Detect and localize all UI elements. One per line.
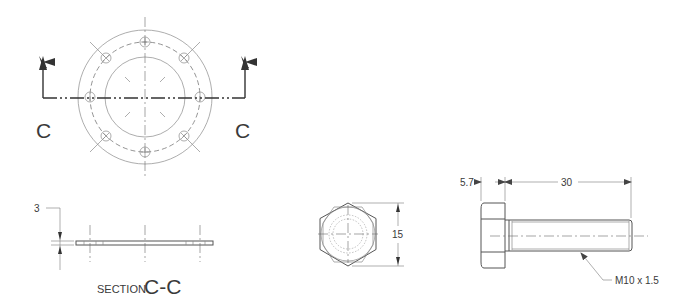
bolt-hole-left bbox=[85, 92, 95, 102]
drawing-canvas: C C 3 SECTION C-C 15 bbox=[0, 0, 678, 301]
bolt-shank bbox=[505, 220, 632, 251]
bolt-hole-bl bbox=[101, 131, 111, 141]
section-label-left: C bbox=[36, 119, 51, 142]
bolt-hole-tl bbox=[101, 53, 111, 63]
section-title-prefix: SECTION bbox=[97, 283, 146, 295]
bolt-head bbox=[481, 203, 505, 268]
bolt-hole-br bbox=[179, 131, 189, 141]
across-flats-dimension: 15 bbox=[392, 229, 404, 240]
thread-callout: M10 x 1.5 bbox=[615, 275, 659, 286]
section-title-id: C-C bbox=[144, 275, 181, 298]
head-height-dimension: 5.7 bbox=[460, 177, 474, 188]
bolt-hole-tr bbox=[179, 53, 189, 63]
bolt-side-view bbox=[478, 177, 648, 280]
shank-length-dimension: 30 bbox=[561, 177, 573, 188]
bolt-hole-right bbox=[195, 92, 205, 102]
section-view bbox=[46, 208, 213, 270]
flange-front-view bbox=[39, 17, 249, 178]
thickness-dimension: 3 bbox=[34, 203, 40, 214]
section-label-right: C bbox=[235, 119, 250, 142]
plate-section bbox=[76, 241, 213, 245]
